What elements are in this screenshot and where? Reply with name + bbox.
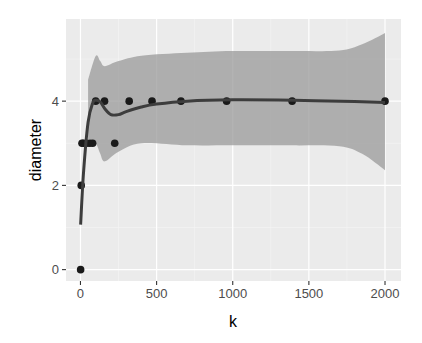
y-tick-label: 0 bbox=[52, 262, 59, 277]
x-tick-label: 500 bbox=[146, 286, 168, 301]
y-tick-label: 2 bbox=[52, 178, 59, 193]
x-axis-ticks: 0500100015002000 bbox=[77, 281, 400, 301]
x-tick-label: 1000 bbox=[218, 286, 247, 301]
x-axis-title: k bbox=[229, 313, 238, 330]
x-tick-label: 2000 bbox=[371, 286, 400, 301]
x-tick-label: 0 bbox=[77, 286, 84, 301]
data-point bbox=[89, 139, 97, 147]
scatter-plot: 0500100015002000 024 k diameter bbox=[0, 0, 422, 343]
data-point bbox=[111, 139, 119, 147]
data-point bbox=[77, 266, 85, 274]
data-point bbox=[125, 97, 133, 105]
y-axis-title: diameter bbox=[27, 118, 44, 181]
y-axis-ticks: 024 bbox=[52, 94, 66, 277]
x-tick-label: 1500 bbox=[294, 286, 323, 301]
y-tick-label: 4 bbox=[52, 94, 59, 109]
